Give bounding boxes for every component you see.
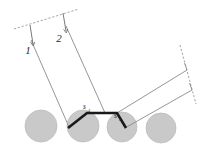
roller-4-circle [146, 113, 176, 143]
segment-label-s1-text: s [83, 102, 86, 111]
linkage-diagram: 1 2 s 1 s 2 [0, 0, 216, 151]
roller-group [25, 110, 176, 143]
link-upper-right [117, 70, 187, 113]
segment-label-s2-text: s [114, 111, 117, 120]
angle-label-1: 1 [25, 44, 31, 56]
upper-left-reference-line [14, 9, 79, 29]
link-inner-left [66, 26, 105, 113]
figure-root: 1 2 s 1 s 2 [0, 0, 216, 151]
angle-label-2: 2 [56, 32, 62, 44]
roller-1-circle [25, 110, 57, 142]
tick-upper-right [185, 63, 188, 70]
angle-arrow-2 [63, 13, 66, 31]
segment-label-s1-subscript: 1 [88, 108, 91, 113]
dashed-reference-group [14, 9, 196, 104]
roller-3-circle [107, 112, 137, 142]
